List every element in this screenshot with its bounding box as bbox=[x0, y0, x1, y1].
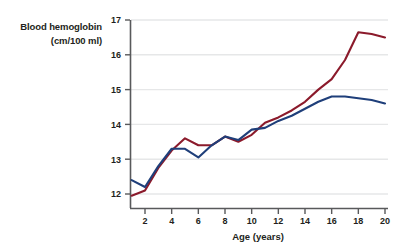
x-tick-label: 8 bbox=[222, 216, 227, 226]
y-tick-label: 12 bbox=[111, 189, 121, 199]
x-tick-label: 14 bbox=[300, 216, 310, 226]
x-tick-label: 20 bbox=[380, 216, 390, 226]
series-line-male bbox=[132, 32, 385, 196]
x-tick-label: 4 bbox=[169, 216, 174, 226]
chart-figure: Blood hemoglobin (cm/100 ml) 12131415161… bbox=[0, 0, 399, 251]
y-tick-label: 14 bbox=[111, 120, 121, 130]
x-tick-label: 6 bbox=[196, 216, 201, 226]
x-tick-label: 16 bbox=[327, 216, 337, 226]
y-tick-label: 16 bbox=[111, 50, 121, 60]
y-tick-label: 17 bbox=[111, 15, 121, 25]
y-tick-group: 121314151617 bbox=[111, 15, 130, 199]
x-tick-group: 2468101214161820 bbox=[142, 209, 390, 226]
x-axis-title: Age (years) bbox=[130, 231, 386, 242]
gridline-group bbox=[131, 20, 388, 194]
data-series-group bbox=[132, 32, 385, 196]
y-tick-label: 13 bbox=[111, 155, 121, 165]
chart-plot-area: 121314151617 2468101214161820 bbox=[0, 0, 399, 251]
x-tick-label: 18 bbox=[353, 216, 363, 226]
x-tick-label: 2 bbox=[142, 216, 147, 226]
x-tick-label: 12 bbox=[273, 216, 283, 226]
axis-group bbox=[130, 20, 388, 209]
x-tick-label: 10 bbox=[247, 216, 257, 226]
y-tick-label: 15 bbox=[111, 85, 121, 95]
series-line-female bbox=[132, 97, 385, 187]
